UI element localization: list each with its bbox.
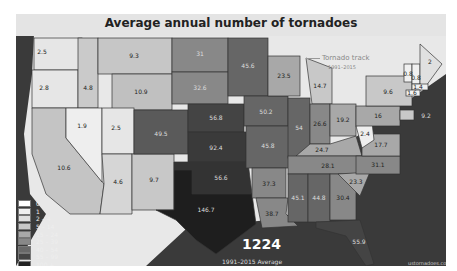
state-md bbox=[400, 110, 414, 120]
state-ut bbox=[102, 108, 134, 154]
svg-text:37.3: 37.3 bbox=[262, 180, 276, 187]
svg-text:32.6: 32.6 bbox=[193, 84, 207, 91]
total-tornadoes: 1224 bbox=[242, 236, 281, 252]
svg-text:50.2: 50.2 bbox=[259, 108, 273, 115]
legend-label: 2 – 4 bbox=[36, 215, 50, 222]
svg-text:9.2: 9.2 bbox=[421, 112, 431, 119]
svg-text:4.6: 4.6 bbox=[113, 178, 123, 185]
svg-text:9.3: 9.3 bbox=[129, 52, 139, 59]
legend-label: 100 + bbox=[36, 261, 54, 266]
legend-item: 2 – 4 bbox=[18, 215, 78, 223]
svg-text:45.8: 45.8 bbox=[261, 142, 275, 149]
svg-text:146.7: 146.7 bbox=[197, 206, 214, 213]
svg-text:2.5: 2.5 bbox=[111, 124, 121, 131]
legend-label: 25 – 39 bbox=[36, 238, 58, 245]
legend-item: 25 – 39 bbox=[18, 238, 78, 246]
svg-text:16: 16 bbox=[374, 112, 382, 119]
legend-item: 40 – 54 bbox=[18, 246, 78, 254]
svg-text:49.5: 49.5 bbox=[154, 130, 168, 137]
legend-swatch bbox=[18, 238, 31, 245]
legend-swatch bbox=[18, 261, 31, 266]
legend-item: 100 + bbox=[18, 261, 78, 266]
svg-text:23.3: 23.3 bbox=[349, 178, 363, 185]
svg-text:1.6: 1.6 bbox=[407, 89, 417, 96]
svg-text:31.1: 31.1 bbox=[371, 161, 385, 168]
legend-swatch bbox=[18, 231, 31, 238]
legend-swatch bbox=[18, 223, 31, 230]
svg-text:31: 31 bbox=[196, 50, 204, 57]
legend-swatch bbox=[18, 253, 31, 260]
legend-label: 0 bbox=[36, 200, 40, 207]
svg-text:0.8: 0.8 bbox=[411, 74, 421, 81]
legend-item: 1 bbox=[18, 208, 78, 216]
legend-swatch bbox=[18, 200, 31, 207]
svg-text:24.7: 24.7 bbox=[315, 146, 329, 153]
legend-item: 15 – 24 bbox=[18, 230, 78, 238]
legend-label: 40 – 54 bbox=[36, 246, 58, 253]
map-title: Average annual number of tornadoes bbox=[16, 16, 446, 30]
state-id bbox=[78, 38, 98, 108]
svg-text:45.6: 45.6 bbox=[241, 62, 255, 69]
svg-text:44.8: 44.8 bbox=[312, 194, 326, 201]
svg-text:2: 2 bbox=[428, 58, 432, 65]
svg-text:9.6: 9.6 bbox=[383, 88, 393, 95]
svg-text:19.2: 19.2 bbox=[336, 116, 350, 123]
svg-text:17.7: 17.7 bbox=[374, 141, 388, 148]
svg-text:54: 54 bbox=[295, 124, 303, 131]
svg-text:10.6: 10.6 bbox=[57, 164, 71, 171]
legend-swatch bbox=[18, 246, 31, 253]
tornado-track-label: Tornado track bbox=[322, 54, 370, 62]
svg-text:56.6: 56.6 bbox=[214, 174, 228, 181]
svg-text:28.1: 28.1 bbox=[321, 162, 335, 169]
legend-item: 5 – 14 bbox=[18, 223, 78, 231]
svg-text:23.5: 23.5 bbox=[277, 72, 291, 79]
svg-text:38.7: 38.7 bbox=[265, 210, 279, 217]
svg-text:2.5: 2.5 bbox=[37, 48, 47, 55]
legend-item: 0 bbox=[18, 200, 78, 208]
legend-label: 55 – 99 bbox=[36, 253, 58, 260]
svg-text:2.8: 2.8 bbox=[39, 84, 49, 91]
legend-item: 55 – 99 bbox=[18, 253, 78, 261]
source-credit: ustornadoes.com bbox=[408, 260, 446, 266]
svg-text:14.7: 14.7 bbox=[313, 82, 327, 89]
svg-text:1.9: 1.9 bbox=[77, 122, 87, 129]
legend-label: 1 bbox=[36, 208, 40, 215]
legend-label: 15 – 24 bbox=[36, 231, 58, 238]
legend-label: 5 – 14 bbox=[36, 223, 54, 230]
us-map: 2.5 2.8 4.8 9.3 10.9 10.6 1.9 2.5 4.6 9.… bbox=[16, 14, 446, 266]
svg-text:4.8: 4.8 bbox=[83, 84, 93, 91]
svg-text:92.4: 92.4 bbox=[209, 144, 223, 151]
svg-text:9.7: 9.7 bbox=[149, 176, 159, 183]
svg-text:10.9: 10.9 bbox=[134, 88, 148, 95]
svg-text:26.6: 26.6 bbox=[313, 120, 327, 127]
tornado-map: 2.5 2.8 4.8 9.3 10.9 10.6 1.9 2.5 4.6 9.… bbox=[16, 14, 446, 266]
legend-swatch bbox=[18, 208, 31, 215]
svg-text:56.8: 56.8 bbox=[209, 114, 223, 121]
svg-text:45.1: 45.1 bbox=[291, 194, 305, 201]
svg-text:30.4: 30.4 bbox=[336, 194, 350, 201]
legend-swatch bbox=[18, 215, 31, 222]
svg-text:55.9: 55.9 bbox=[352, 238, 366, 245]
legend: 0 1 2 – 4 5 – 14 15 – 24 25 – 39 40 – 54… bbox=[18, 200, 78, 266]
total-caption: 1991–2015 Average bbox=[222, 258, 282, 265]
tornado-track-line-icon bbox=[306, 58, 320, 59]
title-bar: Average annual number of tornadoes bbox=[16, 14, 446, 36]
svg-text:2.4: 2.4 bbox=[360, 130, 370, 137]
tornado-track-years: 1991–2015 bbox=[328, 64, 356, 70]
